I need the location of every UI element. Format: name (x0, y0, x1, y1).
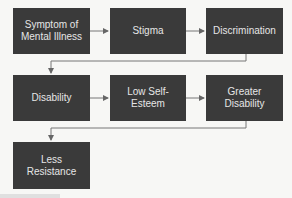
node-discrimination: Discrimination (206, 8, 283, 54)
node-low-self-esteem: Low Self- Esteem (110, 75, 186, 121)
node-label: Symptom of Mental Illness (21, 19, 82, 43)
node-label: Greater Disability (224, 86, 264, 110)
arrow-discrimination-to-disability (51, 54, 246, 73)
node-label: Disability (31, 92, 71, 104)
node-label: Discrimination (213, 25, 276, 37)
node-symptom-of-mental-illness: Symptom of Mental Illness (13, 8, 90, 54)
node-disability: Disability (13, 75, 90, 121)
node-greater-disability: Greater Disability (206, 75, 283, 121)
bottom-edge-strip (0, 194, 60, 198)
node-label: Low Self- Esteem (127, 86, 169, 110)
node-label: Stigma (132, 25, 163, 37)
node-less-resistance: Less Resistance (13, 142, 90, 189)
arrow-greater-disability-to-less-resistance (51, 121, 246, 140)
node-label: Less Resistance (27, 154, 76, 178)
node-stigma: Stigma (110, 8, 186, 54)
